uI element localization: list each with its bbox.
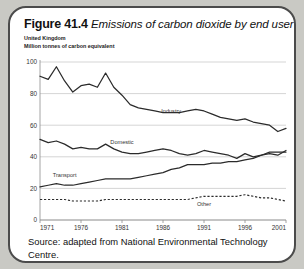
line-chart: 0204060801001971197619811986199119962001… (18, 48, 290, 234)
y-tick-label-20: 20 (30, 185, 38, 192)
series-label-industry: Industry (161, 108, 181, 114)
series-line-other (40, 195, 286, 201)
x-tick-label-1996: 1996 (238, 224, 253, 231)
x-tick-label-1986: 1986 (156, 224, 171, 231)
series-label-other: Other (197, 201, 211, 207)
chart-plot-area: 0204060801001971197619811986199119962001… (18, 48, 290, 234)
x-tick-label-2001: 2001 (272, 224, 287, 231)
x-tick-label-1971: 1971 (40, 224, 55, 231)
series-line-transport (40, 152, 286, 187)
figure-caption: Emissions of carbon dioxide by end user (91, 18, 294, 30)
x-tick-label-1991: 1991 (197, 224, 212, 231)
x-tick-label-1981: 1981 (115, 224, 130, 231)
x-tick-label-1976: 1976 (74, 224, 89, 231)
series-line-industry (40, 67, 286, 132)
y-tick-label-40: 40 (30, 153, 38, 160)
figure-number: Figure 41.4 (24, 17, 88, 31)
series-label-domestic: Domestic (110, 139, 134, 145)
series-label-transport: Transport (53, 172, 77, 178)
series-line-domestic (40, 139, 286, 158)
figure-title: Figure 41.4 Emissions of carbon dioxide … (24, 17, 288, 31)
y-tick-label-0: 0 (33, 216, 37, 223)
chart-subtitle-country: United Kingdom (24, 34, 114, 42)
figure-card: Figure 41.4 Emissions of carbon dioxide … (8, 6, 296, 263)
y-tick-label-80: 80 (30, 90, 38, 97)
y-tick-label-60: 60 (30, 122, 38, 129)
source-note: Source: adapted from National Environmen… (28, 236, 286, 261)
y-tick-label-100: 100 (26, 58, 37, 65)
